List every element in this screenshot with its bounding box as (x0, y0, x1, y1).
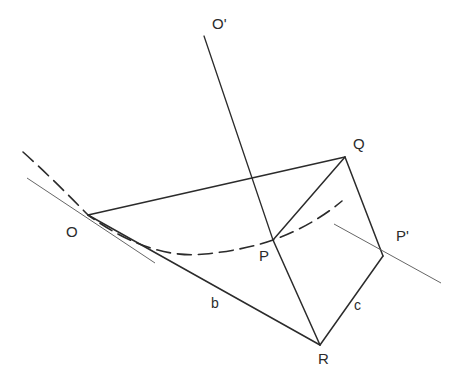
tangent-line-at-O (27, 178, 155, 263)
edge-label-b: b (211, 296, 219, 310)
edge-R-Pprime (320, 256, 383, 345)
vertex-label-R: R (318, 351, 329, 366)
vertex-label-Oprime: O' (212, 16, 227, 31)
vertex-label-P: P (259, 248, 269, 263)
edge-group (88, 36, 383, 345)
tangent-line-at-Pprime (334, 224, 441, 283)
figure-canvas (0, 0, 456, 384)
edge-Q-P (273, 157, 345, 240)
geometry-figure: O O' Q P P' R b c (0, 0, 456, 384)
vertex-label-Pprime: P' (396, 228, 409, 243)
edge-label-c: c (354, 298, 361, 312)
vertex-label-Q: Q (353, 136, 365, 151)
edge-Q-Pprime (345, 157, 383, 256)
edge-Oprime-P (204, 36, 273, 240)
edge-P-R (273, 240, 320, 345)
edge-O-Q (88, 157, 345, 215)
vertex-label-O: O (66, 224, 78, 239)
